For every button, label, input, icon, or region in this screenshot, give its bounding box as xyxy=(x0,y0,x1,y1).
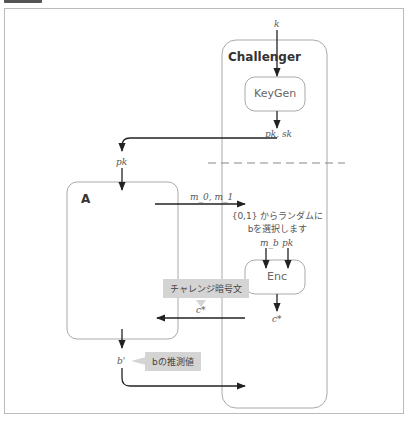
keygen-label: KeyGen xyxy=(254,87,296,100)
enc-input-pk-label: pk xyxy=(282,238,293,248)
received-ciphertext-label: c* xyxy=(196,305,206,315)
callout-pointer-guess xyxy=(131,357,146,365)
keygen-output-label: pk, sk xyxy=(265,129,292,139)
input-k-label: k xyxy=(274,19,279,29)
challenger-title: Challenger xyxy=(228,50,301,64)
diagram-canvas xyxy=(0,0,410,421)
adversary-pk-label: pk xyxy=(116,157,127,167)
enc-output-label: c* xyxy=(272,314,282,324)
enc-input-m-label: m_b xyxy=(260,238,279,248)
callout-challenge-ciphertext: チャレンジ暗号文 xyxy=(163,279,249,298)
guess-label: b' xyxy=(117,356,125,366)
callout-guess-of-b: bの推測値 xyxy=(145,352,201,371)
adversary-title: A xyxy=(81,192,90,206)
random-choice-line1: {0,1} からランダムに xyxy=(225,210,330,223)
random-choice-note: {0,1} からランダムに bを選択します xyxy=(225,210,330,236)
enc-label: Enc xyxy=(267,270,287,283)
random-choice-line2: bを選択します xyxy=(225,223,330,236)
messages-label: m_0, m_1 xyxy=(190,192,233,202)
